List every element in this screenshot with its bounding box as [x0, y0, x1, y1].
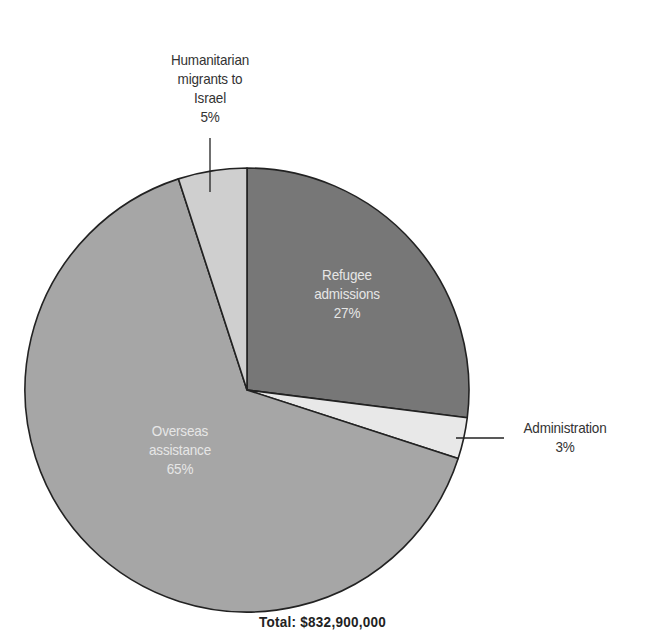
- label-line: Humanitarian: [156, 50, 264, 69]
- label-value: 3%: [507, 437, 624, 456]
- slice-label-refugee-admissions: Refugee admissions 27%: [289, 265, 406, 322]
- label-line: Overseas: [122, 421, 239, 440]
- chart-total: Total: $832,900,000: [32, 613, 613, 630]
- pie-slices: [25, 168, 469, 612]
- label-line: assistance: [122, 440, 239, 459]
- slice-label-administration: Administration 3%: [507, 418, 624, 456]
- label-line: Israel: [156, 88, 264, 107]
- label-line: migrants to: [156, 69, 264, 88]
- slice-label-humanitarian-migrants: Humanitarian migrants to Israel 5%: [156, 50, 264, 126]
- label-line: Refugee: [289, 265, 406, 284]
- label-value: 65%: [122, 459, 239, 478]
- slice-label-overseas-assistance: Overseas assistance 65%: [122, 421, 239, 478]
- label-value: 27%: [289, 303, 406, 322]
- label-value: 5%: [156, 107, 264, 126]
- label-line: admissions: [289, 284, 406, 303]
- label-line: Administration: [507, 418, 624, 437]
